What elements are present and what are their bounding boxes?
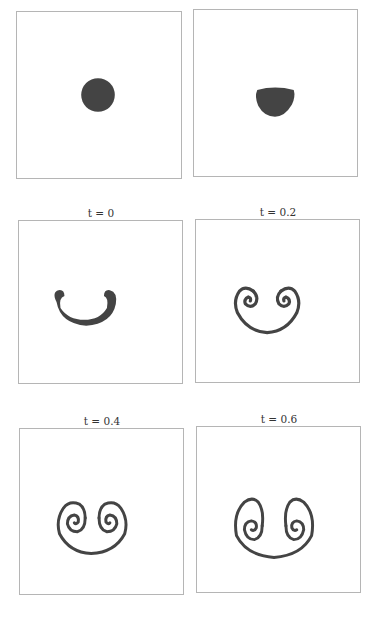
double-spiral-small — [196, 220, 359, 382]
caption-t06: t = 0.6 — [196, 413, 362, 425]
panel-3 — [18, 220, 183, 384]
panel-5 — [19, 428, 184, 595]
caption-t02: t = 0.2 — [195, 206, 361, 218]
panel-4 — [195, 219, 360, 383]
double-spiral-large — [197, 427, 360, 592]
panel-6 — [196, 426, 361, 593]
caption-t04: t = 0.4 — [19, 415, 185, 427]
double-spiral-medium — [20, 429, 183, 594]
panel-1 — [16, 11, 182, 179]
caption-t0: t = 0 — [18, 207, 184, 219]
panel-2 — [193, 9, 358, 177]
horseshoe-shape — [19, 221, 182, 383]
circle-blob — [17, 12, 181, 178]
flattened-blob — [194, 10, 357, 176]
